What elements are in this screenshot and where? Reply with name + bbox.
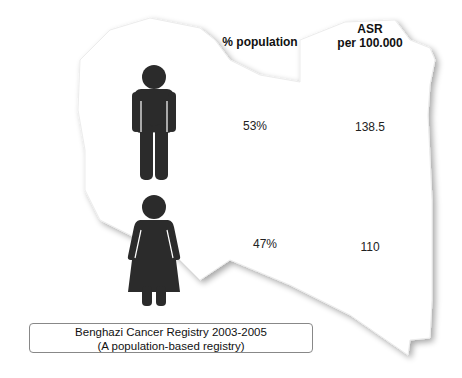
asr-header-line2: per 100.000	[325, 36, 415, 50]
female-population-value: 47%	[240, 237, 290, 251]
asr-header-line1: ASR	[325, 22, 415, 36]
legend-line1: Benghazi Cancer Registry 2003-2005	[30, 325, 312, 339]
woman-icon	[126, 194, 182, 306]
population-header: % population	[210, 35, 310, 49]
female-asr-value: 110	[345, 240, 395, 254]
asr-header: ASR per 100.000	[325, 22, 415, 50]
libya-map-outline	[0, 0, 462, 378]
registry-legend-box: Benghazi Cancer Registry 2003-2005 (A po…	[29, 323, 313, 353]
legend-line2: (A population-based registry)	[30, 339, 312, 353]
man-icon	[128, 64, 180, 184]
male-asr-value: 138.5	[345, 120, 395, 134]
male-population-value: 53%	[230, 119, 280, 133]
